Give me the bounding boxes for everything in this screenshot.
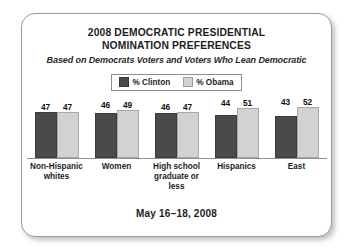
bar-obama[interactable] bbox=[237, 108, 259, 158]
category-label: Hispanics bbox=[207, 162, 267, 192]
chart-card: 2008 DEMOCRATIC PRESIDENTIAL NOMINATION … bbox=[21, 13, 332, 237]
bar-clinton[interactable] bbox=[95, 113, 117, 158]
bar-value-obama: 49 bbox=[117, 100, 139, 110]
category-label-line-1: Non-Hispanic bbox=[27, 162, 87, 172]
bar-group: 43 52 bbox=[271, 99, 323, 158]
value-row: 46 49 bbox=[95, 100, 139, 110]
bar-obama[interactable] bbox=[117, 110, 139, 158]
chart-footer-date: May 16–18, 2008 bbox=[22, 208, 331, 219]
category-label-line-2: graduate or less bbox=[147, 172, 207, 192]
bar-clinton[interactable] bbox=[275, 116, 297, 158]
category-label-line-1: Hispanics bbox=[207, 162, 267, 172]
value-row: 47 47 bbox=[35, 102, 79, 112]
bar-groups: 47 47 46 49 46 bbox=[27, 99, 327, 158]
bar-value-clinton: 46 bbox=[95, 100, 117, 110]
chart-title-line-2: NOMINATION PREFERENCES bbox=[22, 40, 331, 53]
category-label-line-2: whites bbox=[27, 172, 87, 182]
plot-area: 47 47 46 49 46 bbox=[27, 99, 327, 158]
legend-label-obama: % Obama bbox=[196, 78, 233, 87]
category-label: High school graduate or less bbox=[147, 162, 207, 192]
bar-clinton[interactable] bbox=[35, 112, 57, 158]
bar-value-obama: 47 bbox=[177, 102, 199, 112]
bar-row bbox=[95, 110, 139, 158]
legend-item-clinton[interactable]: % Clinton bbox=[119, 77, 170, 87]
bar-value-clinton: 43 bbox=[275, 97, 297, 107]
value-row: 46 47 bbox=[155, 102, 199, 112]
obama-swatch-icon bbox=[183, 77, 193, 87]
bar-obama[interactable] bbox=[177, 112, 199, 158]
bar-obama[interactable] bbox=[297, 107, 319, 158]
bar-group: 44 51 bbox=[211, 99, 263, 158]
bar-value-obama: 47 bbox=[57, 102, 79, 112]
bar-group: 47 47 bbox=[31, 99, 83, 158]
category-label: East bbox=[267, 162, 327, 192]
x-axis-line bbox=[27, 158, 327, 159]
bar-value-clinton: 44 bbox=[215, 98, 237, 108]
bar-value-obama: 51 bbox=[237, 98, 259, 108]
bar-value-obama: 52 bbox=[297, 97, 319, 107]
bar-clinton[interactable] bbox=[215, 115, 237, 158]
legend-item-obama[interactable]: % Obama bbox=[183, 77, 233, 87]
bar-group: 46 49 bbox=[91, 99, 143, 158]
value-row: 44 51 bbox=[215, 98, 259, 108]
chart-subtitle: Based on Democrats Voters and Voters Who… bbox=[22, 55, 331, 65]
bar-row bbox=[155, 112, 199, 158]
bar-value-clinton: 46 bbox=[155, 102, 177, 112]
legend-label-clinton: % Clinton bbox=[132, 78, 170, 87]
bar-row bbox=[35, 112, 79, 158]
value-row: 43 52 bbox=[275, 97, 319, 107]
category-label-line-1: East bbox=[267, 162, 327, 172]
chart-legend: % Clinton % Obama bbox=[111, 74, 241, 91]
category-label-line-1: Women bbox=[87, 162, 147, 172]
category-label: Non-Hispanic whites bbox=[27, 162, 87, 192]
bar-row bbox=[215, 108, 259, 158]
category-label-line-1: High school bbox=[147, 162, 207, 172]
legend-wrapper: % Clinton % Obama bbox=[22, 74, 331, 91]
bar-obama[interactable] bbox=[57, 112, 79, 158]
bar-value-clinton: 47 bbox=[35, 102, 57, 112]
bar-row bbox=[275, 107, 319, 158]
category-labels: Non-Hispanic whites Women High school gr… bbox=[27, 162, 327, 192]
title-block: 2008 DEMOCRATIC PRESIDENTIAL NOMINATION … bbox=[22, 14, 331, 65]
bar-group: 46 47 bbox=[151, 99, 203, 158]
clinton-swatch-icon bbox=[119, 77, 129, 87]
bar-clinton[interactable] bbox=[155, 113, 177, 158]
category-label: Women bbox=[87, 162, 147, 192]
chart-title-line-1: 2008 DEMOCRATIC PRESIDENTIAL bbox=[22, 27, 331, 40]
